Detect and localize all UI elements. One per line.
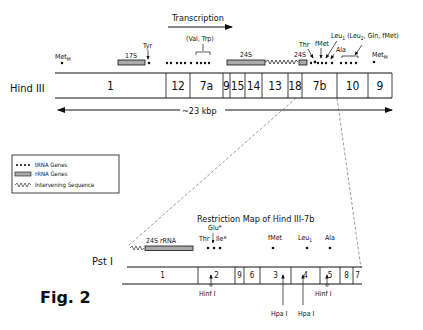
fragment-label: 5 <box>328 271 333 280</box>
fragment-label: 2 <box>214 271 219 280</box>
rrna-24s-bar <box>227 60 265 65</box>
trna-dot <box>148 62 151 65</box>
fragment-label: 4 <box>303 271 308 280</box>
trna-dots-cluster-2 <box>310 61 357 65</box>
genome-map-diagram: Transcription MetM 17S Tyr (Val, Trp) 24… <box>0 0 423 330</box>
fragment-label: 9 <box>237 271 242 280</box>
fmet-label-bottom: fMet <box>268 234 283 242</box>
bottom-gene-annotations: 24S rRNA Glu* Thr Ile* fMet Leu1 Ala <box>130 224 335 251</box>
rrna-24s-small-label: 24S <box>294 51 306 59</box>
fragment-label: 3 <box>273 271 278 280</box>
fragment-label: 7 <box>355 271 360 280</box>
trna-dots-cluster-1 <box>166 62 210 64</box>
fragment-label: 15 <box>231 79 245 93</box>
site-label-4: Hinf I <box>315 290 332 298</box>
rrna-24s-label: 24S <box>240 51 252 59</box>
site-label-1: Hinf I <box>199 290 216 298</box>
legend-rrna-label: rRNA Genes <box>35 170 68 177</box>
transcription-label: Transcription <box>171 13 224 23</box>
fragment-label: 9 <box>223 79 230 93</box>
fmet-label: fMet <box>315 40 330 48</box>
ala-label: Ala <box>336 46 346 54</box>
site-label-2: Hpa I <box>271 310 288 318</box>
fragment-label: 7b <box>313 79 327 93</box>
intervening-sequence <box>265 60 298 64</box>
met-m-right-label: MetM <box>372 51 388 60</box>
fragment-label: 14 <box>247 79 261 93</box>
rrna-17s-label: 17S <box>125 52 137 60</box>
legend-rrna-symbol <box>15 172 31 176</box>
rrna-17s-bar <box>118 60 145 65</box>
ala-label-bottom: Ala <box>325 234 335 242</box>
fragment-label: 1 <box>160 271 165 280</box>
tyr-label: Tyr <box>142 42 152 50</box>
leu-group-label: Leu1 (Leu2, Gln, fMet) <box>331 32 399 41</box>
top-gene-annotations: MetM 17S Tyr (Val, Trp) 24S 24S Thr fMet… <box>55 32 399 65</box>
rrna-24s-small-bar <box>299 60 307 65</box>
legend-trna-label: tRNA Genes <box>35 161 68 168</box>
fragment-label: 7a <box>200 79 213 93</box>
hind-iii-label: Hind III <box>10 82 45 95</box>
pst-i-label: Pst I <box>92 255 113 268</box>
fragment-label: 18 <box>288 79 302 93</box>
hind-iii-fragment-map: 1127a9151413187b109 <box>55 73 392 98</box>
rrna-24s-bar-bottom <box>145 246 193 251</box>
legend-intervening-label: Intervening Sequence <box>35 181 95 189</box>
val-trp-label: (Val, Trp) <box>186 35 214 43</box>
fragment-label: 6 <box>250 271 255 280</box>
fragment-label: 13 <box>268 79 282 93</box>
ile-label: Ile* <box>216 235 227 243</box>
fragment-label: 1 <box>107 79 114 93</box>
thr-label-bottom: Thr <box>198 235 210 243</box>
rrna-24s-label-bottom: 24S rRNA <box>146 237 177 245</box>
met-m-left-label: MetM <box>55 53 71 62</box>
fragment-label: 10 <box>346 79 360 93</box>
trna-dot <box>61 62 64 65</box>
restriction-map-title: Restriction Map of Hind III-7b <box>197 214 314 224</box>
site-label-3: Hpa I <box>298 310 315 318</box>
restriction-sites: Hinf I Hpa I Hpa I Hinf I <box>199 275 332 318</box>
pst-i-fragment-map: 129634587 <box>122 267 362 284</box>
fragment-label: 12 <box>171 79 185 93</box>
glu-label: Glu* <box>208 224 222 232</box>
legend: tRNA Genes rRNA Genes Intervening Sequen… <box>12 155 119 193</box>
fragment-label: 9 <box>377 79 384 93</box>
projection-line-right <box>337 98 361 268</box>
size-label: ~23 kbp <box>182 106 217 116</box>
fragment-label: 8 <box>344 271 349 280</box>
trna-dot <box>373 61 376 64</box>
figure-label: Fig. 2 <box>40 288 91 307</box>
leu-label-bottom: Leu1 <box>298 234 312 243</box>
thr-label: Thr <box>298 41 310 49</box>
